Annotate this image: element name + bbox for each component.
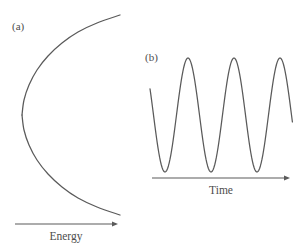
- parabola-lower-branch: [22, 115, 120, 215]
- time-axis-label: Time: [209, 184, 233, 196]
- panel-label-b: (b): [145, 51, 158, 64]
- time-axis-arrowhead: [284, 175, 290, 180]
- panel-a: (a) Energy: [12, 15, 120, 243]
- physics-figure: (a) Energy (b) Time: [0, 0, 303, 246]
- parabola-upper-branch: [22, 15, 120, 115]
- panel-label-a: (a): [12, 20, 25, 33]
- panel-b: (b) Time: [145, 51, 292, 196]
- energy-axis-label: Energy: [49, 230, 82, 243]
- sinusoid-curve: [150, 58, 292, 172]
- energy-axis-arrowhead: [112, 221, 118, 226]
- figure-container: (a) Energy (b) Time: [0, 0, 303, 246]
